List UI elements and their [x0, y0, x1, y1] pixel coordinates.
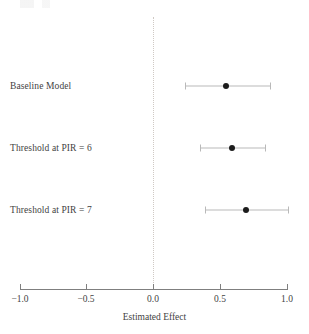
x-axis-tick-label: 1.0 [281, 294, 293, 304]
x-axis-title: Estimated Effect [0, 312, 309, 322]
x-axis-tick [287, 284, 288, 290]
x-axis-tick [153, 284, 154, 290]
estimate-point-marker [229, 145, 235, 151]
forest-plot-figure: Baseline ModelThreshold at PIR = 6Thresh… [0, 0, 309, 334]
plot-area: Baseline ModelThreshold at PIR = 6Thresh… [0, 0, 309, 290]
forest-row-label: Threshold at PIR = 6 [10, 143, 92, 153]
forest-row-label: Threshold at PIR = 7 [10, 205, 92, 215]
x-axis-tick-label: −0.5 [77, 294, 94, 304]
forest-row: Baseline Model [0, 74, 309, 98]
x-axis-tick-label: −1.0 [11, 294, 28, 304]
x-axis-tick [220, 284, 221, 290]
x-axis-tick [86, 284, 87, 290]
confidence-interval-cap-lower [205, 207, 206, 214]
x-axis-tick-label: 0.0 [147, 294, 159, 304]
forest-row: Threshold at PIR = 6 [0, 136, 309, 160]
confidence-interval-cap-lower [200, 145, 201, 152]
estimate-point-marker [243, 207, 249, 213]
estimate-point-marker [223, 83, 229, 89]
x-axis-tick-label: 0.5 [214, 294, 226, 304]
confidence-interval-cap-upper [270, 83, 271, 90]
confidence-interval-cap-upper [288, 207, 289, 214]
forest-row-label: Baseline Model [10, 81, 71, 91]
confidence-interval-cap-lower [185, 83, 186, 90]
x-axis-tick [20, 284, 21, 290]
confidence-interval-cap-upper [265, 145, 266, 152]
forest-row: Threshold at PIR = 7 [0, 198, 309, 222]
